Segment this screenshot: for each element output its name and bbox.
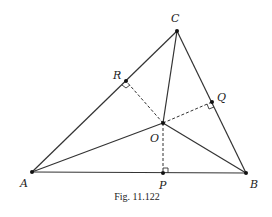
point-p [161, 171, 165, 175]
label-q: Q [217, 91, 226, 104]
label-b: B [249, 178, 258, 191]
right-angle-mark-r [122, 85, 130, 88]
point-c [175, 29, 179, 33]
point-b [244, 171, 248, 175]
perpendicular-or [126, 81, 163, 123]
side-ab [32, 172, 246, 173]
perpendicular-oq [163, 102, 212, 123]
label-a: A [19, 177, 28, 190]
point-o [161, 121, 165, 125]
point-r [124, 79, 128, 83]
label-o: O [150, 132, 159, 145]
figure-canvas: A B C O P Q R Fig. 11.122 [0, 0, 272, 217]
point-q [210, 100, 214, 104]
segment-oa [32, 123, 163, 172]
triangle-diagram: A B C O P Q R Fig. 11.122 [0, 0, 272, 217]
side-ca [32, 31, 177, 172]
segment-oc [163, 31, 177, 123]
label-r: R [112, 69, 121, 82]
point-a [30, 170, 34, 174]
figure-caption: Fig. 11.122 [114, 191, 159, 202]
label-c: C [171, 12, 180, 25]
